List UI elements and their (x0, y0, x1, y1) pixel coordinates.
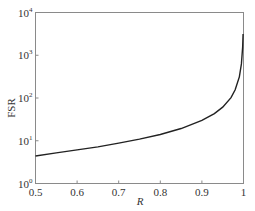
plot-frame (36, 13, 244, 184)
x-tick-label: 0.6 (70, 186, 84, 198)
y-axis-title: FSR (5, 98, 17, 118)
x-tick-label: 0.8 (153, 186, 167, 198)
y-tick-label: 102 (18, 91, 33, 104)
x-tick-label: 0.5 (29, 186, 43, 198)
chart: 0.50.60.70.80.91 100101102103104 FSR R (0, 0, 255, 211)
fsr-curve (36, 34, 244, 156)
x-tick-label: 0.7 (112, 186, 126, 198)
x-axis-title: R (136, 195, 144, 207)
y-tick-label: 101 (18, 134, 33, 147)
y-tick-label: 104 (18, 6, 33, 19)
x-tick-label: 1 (241, 186, 247, 198)
x-tick-label: 0.9 (195, 186, 209, 198)
y-tick-label: 103 (18, 48, 33, 61)
